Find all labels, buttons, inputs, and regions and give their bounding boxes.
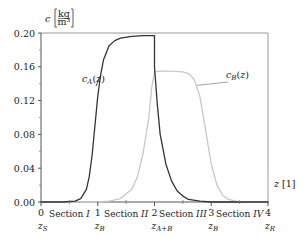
x-tick-sublabel: zR xyxy=(264,221,276,233)
axis-labels: ckgm³z [1] xyxy=(45,8,296,189)
x-axis-label: z [1] xyxy=(273,178,296,189)
series-line-b xyxy=(41,71,268,202)
y-axis-label-symbol: c xyxy=(45,13,51,24)
x-tick-sublabel: zS xyxy=(37,221,48,233)
x-tick-label: 1 xyxy=(95,207,101,218)
x-tick-sublabel: zB xyxy=(207,221,218,233)
concentration-chart: 0.000.040.080.120.160.20 0zS1zB2zA+B3zB4… xyxy=(0,0,307,237)
x-tick-label: 4 xyxy=(265,207,271,218)
y-tick-label: 0.20 xyxy=(14,28,35,39)
x-tick-sublabel: zB xyxy=(94,221,105,233)
section-label: Section III xyxy=(159,209,207,219)
y-tick-label: 0.12 xyxy=(14,95,35,106)
annotation-leader-line xyxy=(197,82,228,85)
x-tick-label: 0 xyxy=(38,207,44,218)
section-label: Section IV xyxy=(216,209,265,219)
section-label: Section I xyxy=(49,209,90,219)
series-layer xyxy=(41,36,268,202)
x-tick-sublabel: zA+B xyxy=(151,221,173,233)
y-unit-denominator: m³ xyxy=(58,16,71,27)
series-line-a xyxy=(41,36,268,202)
x-tick-label: 3 xyxy=(208,207,214,218)
x-tick-label: 2 xyxy=(151,207,157,218)
y-tick-label: 0.16 xyxy=(14,61,35,72)
series-label-a: cA(z) xyxy=(82,73,105,86)
unit-bracket-right xyxy=(71,9,73,27)
series-label-b: cB(z) xyxy=(226,69,249,82)
y-tick-label: 0.04 xyxy=(14,163,35,174)
y-tick-label: 0.08 xyxy=(14,129,35,140)
y-tick-label: 0.00 xyxy=(14,197,35,208)
section-label: Section II xyxy=(104,209,149,219)
y-axis-ticks: 0.000.040.080.120.160.20 xyxy=(14,28,41,208)
